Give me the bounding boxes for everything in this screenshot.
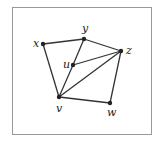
node-z: [119, 49, 123, 53]
edge-v-w: [59, 97, 110, 103]
node-label-z: z: [125, 44, 132, 57]
graph-diagram: xyzuvw: [0, 0, 161, 145]
edge-w-z: [110, 51, 121, 103]
graph-edges: [43, 39, 121, 103]
edge-y-u: [73, 39, 84, 65]
node-label-w: w: [107, 106, 117, 119]
edge-y-z: [84, 39, 121, 51]
node-w: [108, 101, 112, 105]
edge-x-y: [43, 39, 84, 44]
node-v: [57, 95, 61, 99]
node-y: [82, 37, 86, 41]
node-label-x: x: [33, 37, 40, 50]
node-label-v: v: [56, 102, 63, 115]
edge-x-v: [43, 44, 59, 97]
node-label-y: y: [81, 22, 89, 35]
node-x: [41, 42, 45, 46]
edge-u-z: [73, 51, 121, 65]
node-label-u: u: [63, 58, 70, 71]
node-u: [71, 63, 75, 67]
